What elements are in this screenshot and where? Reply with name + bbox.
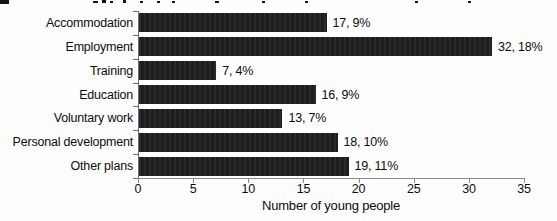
value-label: 13, 7%	[288, 110, 326, 126]
value-label: 17, 9%	[333, 15, 371, 31]
y-axis-tick	[133, 35, 138, 36]
bar	[139, 109, 282, 128]
bar	[139, 133, 338, 152]
x-tick-label: 20	[344, 182, 374, 197]
x-axis-line	[138, 178, 525, 179]
category-label: Training	[0, 63, 133, 79]
x-tick-label: 15	[288, 182, 318, 197]
bar	[139, 157, 349, 176]
x-tick-label: 30	[454, 182, 484, 197]
category-label: Other plans	[0, 158, 133, 174]
bar	[139, 13, 327, 32]
bar	[139, 85, 316, 104]
value-label: 32, 18%	[498, 39, 542, 55]
y-axis-tick	[133, 154, 138, 155]
x-axis-title: Number of young people	[138, 198, 524, 214]
value-label: 18, 10%	[344, 134, 388, 150]
y-axis-tick	[133, 130, 138, 131]
category-label: Education	[0, 87, 133, 103]
x-tick-label: 5	[178, 182, 208, 197]
category-label: Personal development	[0, 134, 133, 150]
y-axis-tick	[133, 83, 138, 84]
x-tick-label: 0	[123, 182, 153, 197]
category-label: Accommodation	[0, 15, 133, 31]
y-axis-tick	[133, 106, 138, 107]
bar	[139, 61, 216, 80]
category-label: Voluntary work	[0, 110, 133, 126]
value-label: 7, 4%	[222, 63, 253, 79]
value-label: 19, 11%	[355, 158, 399, 174]
category-label: Employment	[0, 39, 133, 55]
x-tick-label: 35	[509, 182, 539, 197]
x-tick-label: 25	[399, 182, 429, 197]
y-axis-line	[138, 11, 139, 178]
x-tick-label: 10	[233, 182, 263, 197]
y-axis-tick	[133, 11, 138, 12]
value-label: 16, 9%	[322, 87, 360, 103]
bar	[139, 37, 492, 56]
y-axis-tick	[133, 59, 138, 60]
bar-chart-figure: Accommodation17, 9%Employment32, 18%Trai…	[0, 0, 557, 221]
